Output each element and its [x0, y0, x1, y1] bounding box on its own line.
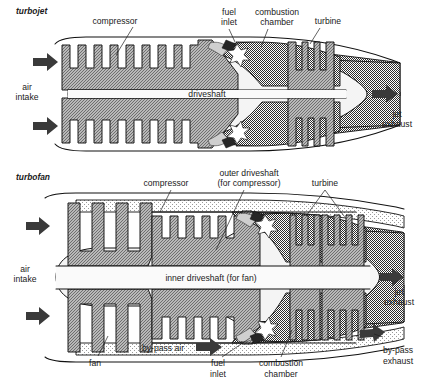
- turbofan-intake-arrow-bottom: [26, 307, 50, 325]
- turbofan-inner-driveshaft-label: inner driveshaft (for fan): [165, 273, 256, 283]
- turbojet-fuel-inlet-label-line2: inlet: [221, 17, 237, 27]
- turbojet-air-intake-label-line1: air: [22, 82, 32, 92]
- turbofan-bypass-exhaust-label-line2: exhaust: [383, 356, 414, 366]
- turbojet-section: turbojet: [16, 6, 413, 151]
- turbofan-section: turbofan: [14, 168, 415, 379]
- turbofan-combustion-label-line2: chamber: [264, 369, 298, 379]
- turbofan-jet-exhaust-label-line2: exhaust: [384, 297, 415, 307]
- turbofan-bypass-air-label: by-pass air: [142, 343, 184, 353]
- turbofan-intake-arrow-top: [26, 217, 50, 235]
- turbofan-fan-label: fan: [89, 358, 101, 368]
- turbojet-section-label: turbojet: [16, 6, 48, 16]
- turbojet-combustion-label-line2: chamber: [260, 17, 294, 27]
- turbojet-fuel-inlet-label-line1: fuel: [222, 7, 236, 17]
- turbofan-combustion-label-line1: combustion: [259, 358, 303, 368]
- turbojet-driveshaft-label: driveshaft: [188, 89, 226, 99]
- turbofan-jet-exhaust-label-line1: jet: [393, 287, 404, 297]
- turbofan-section-label: turbofan: [16, 172, 50, 182]
- turbofan-compressor-label: compressor: [144, 178, 189, 188]
- turbofan-outer-driveshaft-label-line1: outer driveshaft: [219, 168, 279, 178]
- turbofan-bypass-exhaust-label-line1: by-pass: [383, 345, 413, 355]
- leader-turbojet-fuel-inlet: [229, 29, 235, 42]
- turbofan-turbine-label: turbine: [312, 178, 338, 188]
- turbojet-intake-arrow-bottom: [33, 117, 58, 135]
- turbofan-turbine-upper-group1: [290, 215, 320, 268]
- turbofan-outer-driveshaft-label-line2: (for compressor): [217, 178, 280, 188]
- turbojet-jet-exhaust-label-line1: jet: [391, 109, 402, 119]
- turbojet-jet-exhaust-label-line2: exhaust: [382, 119, 413, 129]
- turbojet-intake-arrow-top: [33, 53, 58, 71]
- turbofan-air-intake-label-line1: air: [20, 264, 30, 274]
- turbofan-fuel-inlet-label-line1: fuel: [211, 358, 225, 368]
- turbojet-combustion-label-line1: combustion: [255, 7, 299, 17]
- turbojet-air-intake-label-line2: intake: [16, 92, 39, 102]
- jet-engine-diagram: turbojet: [0, 0, 423, 381]
- turbojet-compressor-label: compressor: [93, 16, 138, 26]
- turbofan-air-intake-label-line2: intake: [14, 274, 37, 284]
- turbofan-fuel-inlet-label-line2: inlet: [210, 369, 226, 379]
- diagram-canvas: turbojet: [0, 0, 423, 381]
- turbofan-turbine-lower-group1: [290, 287, 320, 340]
- turbojet-turbine-label: turbine: [315, 16, 341, 26]
